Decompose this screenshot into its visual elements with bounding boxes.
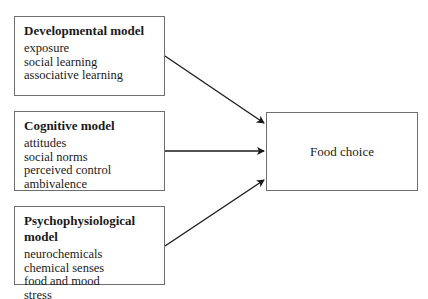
food-choice-box: Food choice (266, 112, 418, 191)
arrow-developmental-to-food-choice (165, 56, 264, 123)
model-item: chemical senses (24, 262, 164, 276)
model-title: Cognitive model (24, 118, 164, 134)
model-title: Developmental model (24, 23, 164, 39)
model-item: neurochemicals (24, 248, 164, 262)
model-item: attitudes (24, 137, 164, 151)
model-item: associative learning (24, 69, 164, 83)
model-item: social learning (24, 56, 164, 70)
model-item: ambivalence (24, 178, 164, 192)
model-item: exposure (24, 42, 164, 56)
psychophysiological-model-box: Psychophysiological model neurochemicals… (14, 206, 165, 285)
model-item: stress (24, 289, 164, 299)
food-choice-label: Food choice (310, 144, 374, 160)
developmental-model-box: Developmental model exposure social lear… (14, 16, 165, 96)
cognitive-model-box: Cognitive model attitudes social norms p… (14, 111, 165, 191)
model-item: food and mood (24, 275, 164, 289)
model-title: Psychophysiological model (24, 213, 164, 245)
model-item: social norms (24, 151, 164, 165)
model-item: perceived control (24, 164, 164, 178)
arrow-psychophysiological-to-food-choice (165, 180, 264, 246)
